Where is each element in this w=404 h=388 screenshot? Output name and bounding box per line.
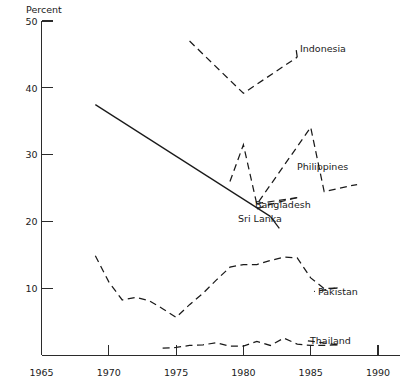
x-tick-label-1980: 1980 [231,367,255,378]
series-label-bangladesh: Bangladesh [255,199,311,210]
chart-plot-area: Percent 1020304050 196519701975198019851… [0,0,404,388]
series-line-indonesia [190,41,298,93]
y-axis-ticks [42,21,53,289]
series-label-sri-lanka: Sri Lanka [238,213,282,224]
x-tick-label-1975: 1975 [164,367,188,378]
series-label-thailand: Thailand [309,335,351,346]
y-tick-label-50: 50 [25,16,37,27]
x-tick-label-1990: 1990 [366,367,390,378]
series-line-pakistan [95,256,337,318]
series-leader-indonesia [296,49,297,58]
x-tick-label-1985: 1985 [299,367,323,378]
series-line-sri-lanka [95,105,270,217]
y-tick-label-40: 40 [25,83,37,94]
y-axis-tick-labels: 1020304050 [25,16,37,295]
series-label-indonesia: Indonesia [300,43,346,54]
series-label-philippines: Philippines [297,161,348,172]
y-tick-label-10: 10 [25,283,37,294]
y-tick-label-20: 20 [25,216,37,227]
series-lines-group [95,41,357,348]
x-tick-label-1970: 1970 [97,367,121,378]
y-tick-label-30: 30 [25,149,37,160]
x-axis-tick-labels: 196519701975198019851990 [29,367,390,378]
series-leader-philippines [351,185,357,186]
y-axis-unit-label: Percent [26,4,62,15]
series-label-pakistan: Pakistan [318,286,358,297]
line-chart: Percent 1020304050 196519701975198019851… [0,0,404,388]
series-labels-group: IndonesiaSri LankaPhilippinesBangladeshP… [238,43,358,346]
x-tick-label-1965: 1965 [29,367,53,378]
